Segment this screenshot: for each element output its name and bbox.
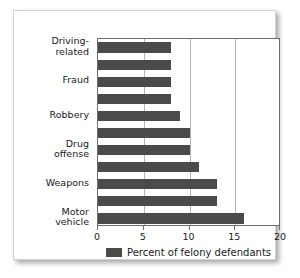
legend-swatch-icon bbox=[106, 248, 122, 257]
category-label: Fraud bbox=[62, 75, 89, 86]
category-axis-labels: Driving- relatedFraudRobberyDrug offense… bbox=[14, 38, 93, 226]
tick-mark bbox=[234, 226, 235, 230]
bar bbox=[98, 196, 217, 206]
bar bbox=[98, 128, 190, 138]
category-label: Drug offense bbox=[54, 139, 89, 160]
tick-label: 5 bbox=[140, 231, 146, 242]
bar bbox=[98, 42, 171, 52]
tick-label: 0 bbox=[94, 231, 100, 242]
tick-mark bbox=[97, 226, 98, 230]
legend-label: Percent of felony defendants bbox=[127, 247, 271, 258]
tick-label: 15 bbox=[228, 231, 240, 242]
category-label: Driving- related bbox=[51, 36, 89, 57]
bar bbox=[98, 145, 190, 155]
tick-label: 10 bbox=[182, 231, 194, 242]
tick-mark bbox=[143, 226, 144, 230]
chart-card: Driving- relatedFraudRobberyDrug offense… bbox=[13, 10, 276, 260]
category-label: Weapons bbox=[46, 178, 89, 189]
plot-area bbox=[97, 38, 280, 226]
bar-series bbox=[98, 39, 279, 225]
tick-mark bbox=[279, 226, 280, 230]
chart-figure: Driving- relatedFraudRobberyDrug offense… bbox=[0, 0, 300, 278]
bar bbox=[98, 179, 217, 189]
chart-legend: Percent of felony defendants bbox=[97, 247, 280, 258]
value-axis: 05101520 bbox=[97, 226, 280, 244]
tick-label: 20 bbox=[274, 231, 286, 242]
bar bbox=[98, 77, 171, 87]
category-label: Motor vehicle bbox=[55, 207, 89, 228]
category-label: Robbery bbox=[50, 110, 89, 121]
bar bbox=[98, 213, 244, 223]
bar bbox=[98, 60, 171, 70]
tick-mark bbox=[189, 226, 190, 230]
bar bbox=[98, 111, 180, 121]
bar bbox=[98, 162, 199, 172]
bar bbox=[98, 94, 171, 104]
